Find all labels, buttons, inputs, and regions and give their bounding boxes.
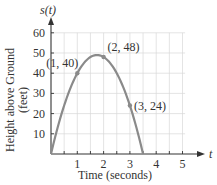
- y-tick-label: 20: [33, 107, 45, 121]
- y-axis-label-line1: Height above Ground: [3, 48, 17, 152]
- point-label: (2, 48): [108, 40, 140, 54]
- parabola-chart: 12345102030405060 (1, 40)(2, 48)(3, 24) …: [0, 0, 217, 185]
- y-tick-label: 50: [33, 46, 45, 60]
- y-tick-label: 10: [33, 127, 45, 141]
- point-label: (3, 24): [134, 99, 166, 113]
- data-point: [128, 103, 132, 107]
- x-axis-symbol: t: [209, 147, 213, 161]
- data-point: [75, 71, 79, 75]
- point-label: (1, 40): [46, 56, 78, 70]
- y-tick-label: 30: [33, 86, 45, 100]
- x-tick-label: 5: [180, 157, 186, 171]
- data-point: [101, 55, 105, 59]
- y-tick-label: 40: [33, 66, 45, 80]
- x-axis-label: Time (seconds): [78, 168, 152, 182]
- y-axis-arrow-icon: [48, 17, 54, 25]
- y-axis-symbol: s(t): [40, 3, 56, 17]
- x-tick-label: 4: [153, 157, 159, 171]
- x-axis-arrow-icon: [197, 151, 205, 157]
- y-tick-label: 60: [33, 26, 45, 40]
- y-axis-label-line2: (feet): [16, 87, 30, 113]
